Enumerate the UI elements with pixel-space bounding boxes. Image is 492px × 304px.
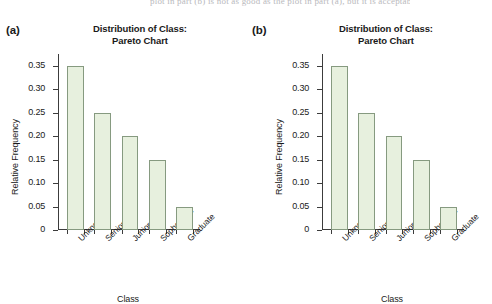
y-axis-label-b: Relative Frequency [274, 112, 286, 202]
y-tick-label-a-7: 0.35 [28, 60, 45, 70]
bar-b-3 [413, 160, 430, 230]
x-tick-b-3-0 [413, 230, 414, 234]
x-tick-b-2-0 [386, 230, 387, 234]
y-tick-label-b-4: 0.20 [292, 130, 309, 140]
y-tick-label-a-1: 0.05 [28, 201, 45, 211]
y-tick-b-0: 0 [317, 230, 322, 231]
y-tick-label-a-6: 0.30 [28, 83, 45, 93]
chart-title-a: Distribution of Class: Pareto Chart [40, 23, 240, 47]
plot-wrap-b: Relative Frequency 00.050.100.150.200.25… [246, 54, 492, 300]
x-axis-label-a: Class [48, 294, 208, 304]
panel-label-a: (a) [6, 24, 20, 36]
y-axis-label-a: Relative Frequency [10, 112, 22, 202]
y-tick-label-b-5: 0.25 [292, 107, 309, 117]
y-tick-label-a-3: 0.15 [28, 154, 45, 164]
chart-title-line1-a: Distribution of Class: [93, 23, 187, 34]
y-tick-b-3: 0.15 [317, 160, 322, 161]
y-tick-label-b-1: 0.05 [292, 201, 309, 211]
y-tick-a-1: 0.05 [53, 207, 58, 208]
x-tick-b-1-0 [358, 230, 359, 234]
bar-b-0 [331, 66, 348, 230]
y-tick-a-5: 0.25 [53, 113, 58, 114]
plot-area-a: 00.050.100.150.200.250.300.35UnknownSeni… [58, 54, 194, 230]
x-axis-label-b: Class [312, 294, 472, 304]
bar-b-2 [386, 136, 403, 230]
chart-title-b: Distribution of Class: Pareto Chart [286, 23, 486, 47]
panel-label-b: (b) [252, 24, 266, 36]
y-tick-label-a-0: 0 [40, 224, 45, 234]
x-tick-a-0-0 [67, 230, 68, 234]
y-tick-label-b-0: 0 [304, 224, 309, 234]
y-tick-label-b-2: 0.10 [292, 177, 309, 187]
x-tick-a-4-0 [176, 230, 177, 234]
y-tick-b-1: 0.05 [317, 207, 322, 208]
y-tick-label-b-7: 0.35 [292, 60, 309, 70]
y-tick-b-6: 0.30 [317, 89, 322, 90]
y-tick-b-4: 0.20 [317, 136, 322, 137]
y-tick-b-7: 0.35 [317, 66, 322, 67]
y-tick-label-a-2: 0.10 [28, 177, 45, 187]
x-tick-a-3-0 [149, 230, 150, 234]
y-tick-label-a-4: 0.20 [28, 130, 45, 140]
x-tick-a-2-0 [122, 230, 123, 234]
y-tick-a-7: 0.35 [53, 66, 58, 67]
x-tick-b-0-0 [331, 230, 332, 234]
y-tick-label-b-3: 0.15 [292, 154, 309, 164]
bar-b-4 [440, 207, 457, 230]
bar-a-4 [176, 207, 193, 230]
bar-a-0 [67, 66, 84, 230]
y-tick-a-2: 0.10 [53, 183, 58, 184]
x-tick-b-4-0 [440, 230, 441, 234]
y-tick-a-0: 0 [53, 230, 58, 231]
y-tick-label-a-5: 0.25 [28, 107, 45, 117]
y-tick-a-4: 0.20 [53, 136, 58, 137]
bar-b-1 [358, 113, 375, 230]
bar-a-2 [122, 136, 139, 230]
y-tick-b-2: 0.10 [317, 183, 322, 184]
y-tick-a-6: 0.30 [53, 89, 58, 90]
y-axis-line-b [322, 54, 323, 230]
y-tick-label-b-6: 0.30 [292, 83, 309, 93]
x-tick-a-1-0 [94, 230, 95, 234]
y-tick-b-5: 0.25 [317, 113, 322, 114]
plot-area-b: 00.050.100.150.200.250.300.35UnknownSeni… [322, 54, 458, 230]
chart-title-line1-b: Distribution of Class: [339, 23, 433, 34]
y-axis-line-a [58, 54, 59, 230]
plot-wrap-a: Relative Frequency 00.050.100.150.200.25… [0, 54, 246, 300]
y-tick-a-3: 0.15 [53, 160, 58, 161]
chart-panel-a: (a) Distribution of Class: Pareto Chart … [0, 20, 246, 300]
bar-a-1 [94, 113, 111, 230]
chart-title-line2-b: Pareto Chart [286, 35, 486, 47]
bar-a-3 [149, 160, 166, 230]
chart-title-line2-a: Pareto Chart [40, 35, 240, 47]
chart-panel-b: (b) Distribution of Class: Pareto Chart … [246, 20, 492, 300]
